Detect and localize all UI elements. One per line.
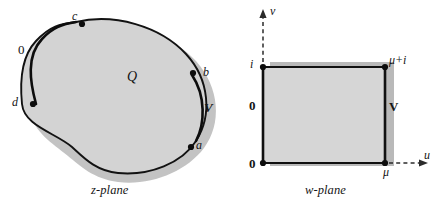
w-corner-label-origin: 0 bbox=[249, 157, 256, 170]
figure-graphics bbox=[0, 0, 437, 207]
z-point-label-a: a bbox=[196, 139, 202, 151]
w-plane-caption: w-plane bbox=[305, 184, 346, 197]
w-axis-v-arrowhead bbox=[259, 9, 266, 18]
w-edge-label-V: V bbox=[389, 100, 398, 113]
w-plane-caption-text: w-plane bbox=[305, 183, 346, 197]
z-point-b-dot bbox=[190, 70, 196, 76]
z-point-label-d: d bbox=[12, 96, 18, 108]
w-corner-label-mu: μ bbox=[383, 166, 389, 178]
w-corner-origin-dot bbox=[260, 160, 266, 166]
z-point-label-c: c bbox=[72, 10, 77, 22]
z-region-label: Q bbox=[127, 70, 137, 84]
w-corner-label-mu-plus-i: μ+i bbox=[389, 54, 406, 66]
z-point-c-dot bbox=[79, 21, 85, 27]
z-plane-caption-text: z-plane bbox=[91, 183, 129, 197]
z-point-label-b: b bbox=[203, 66, 209, 78]
z-point-a-dot bbox=[188, 144, 194, 150]
w-edge-label-zero: 0 bbox=[249, 99, 256, 112]
z-region-fill bbox=[21, 19, 206, 173]
z-point-d-dot bbox=[30, 101, 36, 107]
w-axis-label-v: v bbox=[270, 5, 275, 17]
w-axis-label-u: u bbox=[424, 149, 430, 161]
z-arc-label-zero: 0 bbox=[18, 43, 25, 56]
w-corner-mu-plus-i-dot bbox=[382, 64, 388, 70]
w-corner-label-i: i bbox=[250, 58, 253, 70]
w-rect-fill bbox=[263, 67, 385, 163]
z-plane-caption: z-plane bbox=[91, 184, 129, 197]
z-arc-label-V: V bbox=[204, 101, 213, 114]
figure-root: Q a b c d 0 V z-plane v u 0 μ μ+i i 0 V … bbox=[0, 0, 437, 207]
w-corner-i-dot bbox=[260, 64, 266, 70]
